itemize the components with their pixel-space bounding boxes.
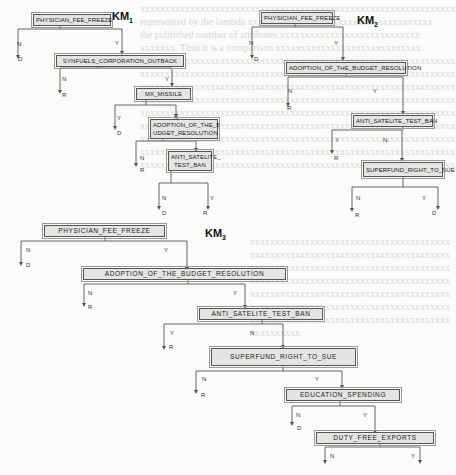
km3-node-superfund-right-to-sue: SUPERFUND_RIGHT_TO_SUE xyxy=(211,348,356,366)
km3-edge-label-n: N xyxy=(202,376,206,382)
km3-edge-label-n: N xyxy=(330,453,334,459)
km1-edge-label-y: Y xyxy=(210,195,214,201)
km1-edge-label-n: N xyxy=(17,41,21,47)
km1-leaf-r: R xyxy=(203,210,207,216)
km3-edge-label-y: Y xyxy=(170,330,174,336)
km2-node-physician-fee-freeze: PHYSICIAN_FEE_FREEZE xyxy=(261,12,333,24)
km2-node-anti-satelite-test-ban: ANTI_SATELITE_TEST_BAN xyxy=(353,115,433,127)
km1-node-anti-satelite-test-ban: ANTI_SATELITE_ TEST_BAN xyxy=(168,151,212,171)
km1-leaf-r: R xyxy=(62,92,66,98)
km3-leaf-d: D xyxy=(26,262,30,268)
km3-node-duty-free-exports: DUTY_FREE_EXPORTS xyxy=(316,432,434,444)
km1-edge-label-y: Y xyxy=(165,76,169,82)
km3-edge-label-n: N xyxy=(26,247,30,253)
km1-leaf-r: R xyxy=(140,167,144,173)
km3-edge-label-y: Y xyxy=(164,247,168,253)
km2-edge-label-y: Y xyxy=(422,195,426,201)
km3-leaf-r: R xyxy=(169,344,173,350)
km1-node-synfuels-corporation-outback: SYNFUELS_CORPORATION_OUTBACK xyxy=(56,55,184,67)
km2-edge-label-n: N xyxy=(288,88,292,94)
km2-edge-label-y: Y xyxy=(334,40,338,46)
km2-leaf-d: D xyxy=(254,56,258,62)
km1-edge-label-n: N xyxy=(162,195,166,201)
km1-node-adoption-of-the-budget-resolution: ADOPTION_OF_THE_B UDGET_RESOLUTION xyxy=(150,119,218,139)
km2-leaf-r: R xyxy=(287,105,291,111)
km1-leaf-d: D xyxy=(18,56,22,62)
km3-node-physician-fee-freeze: PHYSICIAN_FEE_FREEZE xyxy=(44,225,165,237)
km3-edge-label-n: N xyxy=(296,412,300,418)
km2-leaf-r: R xyxy=(334,155,338,161)
km2-edge-label-y: Y xyxy=(373,88,377,94)
km2-edge-label-n: N xyxy=(383,137,387,143)
km3-node-adoption-of-the-budget-resolution: ADOPTION_OF_THE_BUDGET_RESOLUTION xyxy=(83,268,286,280)
km1-node-physician-fee-freeze: PHYSICIAN_FEE_FREEZE xyxy=(33,14,111,26)
km3-leaf-r: R xyxy=(88,304,92,310)
km1-edge-label-y: Y xyxy=(117,115,121,121)
km1-edge-label-y: Y xyxy=(115,40,119,46)
km3-leaf-r: R xyxy=(201,392,205,398)
km1-node-mx-missile: MX_MISSILE xyxy=(136,88,191,100)
km2-edge-label-n: N xyxy=(249,40,253,46)
km2-edge-label-y: Y xyxy=(335,137,339,143)
km2-node-superfund-right-to-sue: SUPERFUND_RIGHT_TO_SUE xyxy=(363,162,443,177)
km3-edge-label-y: Y xyxy=(315,376,319,382)
km1-title: KM1 xyxy=(112,10,133,24)
km3-edge-label-y: Y xyxy=(233,290,237,296)
km3-edge-label-n: N xyxy=(88,290,92,296)
km3-edge-label-n: N xyxy=(250,330,254,336)
km1-leaf-d: D xyxy=(117,130,121,136)
km2-leaf-r: R xyxy=(355,212,359,218)
km3-node-anti-satelite-test-ban: ANTI_SATELITE_TEST_BAN xyxy=(199,308,323,320)
km3-leaf-d: D xyxy=(297,425,301,431)
km3-title: KM3 xyxy=(205,227,226,241)
km1-edge-label-n: N xyxy=(62,76,66,82)
km3-edge-label-y: Y xyxy=(363,412,367,418)
km2-title: KM2 xyxy=(357,14,378,28)
km2-node-adoption-of-the-budget-resolution: ADOPTION_OF_THE_BUDGET_RESOLUTION xyxy=(286,62,406,74)
km1-edge-label-n: N xyxy=(140,155,144,161)
km2-leaf-d: D xyxy=(432,210,436,216)
km3-node-education-spending: EDUCATION_SPENDING xyxy=(286,389,400,401)
km1-leaf-d: D xyxy=(162,210,166,216)
km3-edge-label-y: Y xyxy=(411,453,415,459)
km2-edge-label-n: N xyxy=(356,195,360,201)
